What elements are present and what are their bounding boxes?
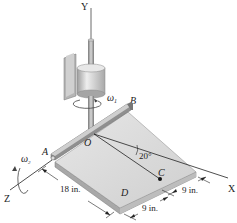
rotating-plate-diagram: ω1 B 20° ω2 Y X Z A O C D 18 (0, 0, 237, 223)
omega2-rotation-arrow-icon (12, 166, 28, 193)
omega2-label: ω2 (21, 153, 31, 165)
omega1-rotation-arrow-icon (73, 99, 101, 109)
diagram-canvas: ω1 B 20° ω2 Y X Z A O C D 18 (0, 0, 237, 223)
z-axis (10, 160, 52, 190)
point-d-label: D (120, 187, 129, 198)
angle-label: 20° (139, 151, 152, 161)
x-axis-label: X (228, 183, 236, 194)
z-axis-label: Z (4, 193, 10, 204)
motor-cylinder (77, 64, 105, 98)
point-o-label: O (84, 137, 91, 148)
dimension-18in-label: 18 in. (60, 184, 81, 194)
y-axis-label: Y (81, 1, 88, 12)
point-a-label: A (41, 146, 49, 157)
dimension-9in-lower-label: 9 in. (142, 203, 158, 213)
point-c-label: C (158, 167, 165, 178)
plate (55, 112, 196, 214)
dimension-9in-upper-label: 9 in. (182, 185, 198, 195)
bearing-housing (64, 53, 76, 100)
omega1-label: ω1 (107, 92, 117, 104)
